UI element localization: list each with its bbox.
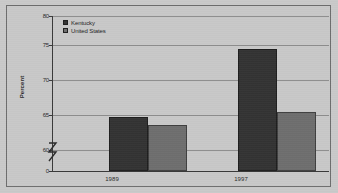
y-tick-mark-70 bbox=[49, 80, 53, 81]
bar-united-states-1997 bbox=[277, 112, 316, 171]
y-tick-mark-65 bbox=[49, 115, 53, 116]
y-tick-label-75: 75 bbox=[27, 42, 49, 48]
chart-frame: 80 75 70 65 60 0 Percent 1989 1997 Kentu… bbox=[6, 5, 331, 187]
y-tick-mark-75 bbox=[49, 45, 53, 46]
y-tick-label-80: 80 bbox=[27, 13, 49, 19]
bar-kentucky-1997 bbox=[238, 49, 277, 171]
bar-united-states-1989 bbox=[148, 125, 187, 171]
y-tick-mark-80 bbox=[49, 16, 53, 17]
y-tick-label-70: 70 bbox=[27, 77, 49, 83]
legend-label-united-states: United States bbox=[71, 28, 106, 34]
y-tick-mark-0 bbox=[49, 171, 53, 172]
chart-screenshot: 80 75 70 65 60 0 Percent 1989 1997 Kentu… bbox=[0, 0, 338, 193]
y-tick-label-65: 65 bbox=[27, 112, 49, 118]
y-axis-title: Percent bbox=[19, 64, 25, 110]
legend-swatch-icon-kentucky bbox=[63, 20, 68, 25]
x-axis-label-1989: 1989 bbox=[82, 176, 142, 182]
bars-layer bbox=[53, 16, 329, 171]
legend-item-kentucky: Kentucky bbox=[63, 19, 115, 26]
y-axis-labels: 80 75 70 65 60 0 bbox=[25, 6, 49, 193]
legend-label-kentucky: Kentucky bbox=[71, 20, 95, 26]
bar-kentucky-1989 bbox=[109, 117, 148, 171]
x-axis-line bbox=[52, 171, 329, 172]
chart-legend: Kentucky United States bbox=[63, 19, 115, 35]
legend-swatch-icon-united-states bbox=[63, 28, 68, 33]
axis-break-icon bbox=[46, 141, 60, 163]
legend-item-united-states: United States bbox=[63, 27, 115, 34]
x-axis-label-1997: 1997 bbox=[211, 176, 271, 182]
y-tick-label-0: 0 bbox=[27, 168, 49, 174]
